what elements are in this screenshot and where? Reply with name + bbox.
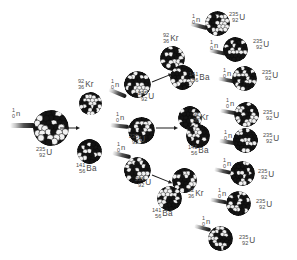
mass-atomic-number: 23592 — [138, 91, 147, 102]
atomic-number: 92 — [132, 140, 138, 146]
label-neutron-n-gen1-b: 10n — [116, 112, 124, 123]
label-uranium-u-gen2-5: 23592U — [263, 133, 279, 144]
mass-atomic-number: 10 — [223, 158, 226, 169]
label-barium-ba-gen1: 14156Ba — [76, 163, 97, 174]
label-uranium-u-gen2-2: 23592U — [253, 39, 269, 50]
element-symbol: U — [263, 41, 269, 49]
atomic-number: 92 — [259, 205, 265, 211]
mass-atomic-number: 23592 — [229, 12, 238, 23]
nucleus-uranium — [234, 102, 259, 127]
mass-atomic-number: 10 — [202, 216, 205, 227]
label-neutron-n-gen0: 10n — [12, 108, 20, 119]
arrow-head-icon — [168, 180, 173, 185]
atomic-number: 0 — [226, 104, 229, 110]
mass-atomic-number: 14156 — [152, 208, 161, 219]
element-symbol: Ba — [162, 210, 172, 218]
label-krypton-kr-gen1: 9236Kr — [78, 79, 94, 90]
label-neutron-n-gen2-1: 10n — [192, 14, 200, 25]
label-krypton-kr-gen2-c: 9236Kr — [188, 188, 204, 199]
mass-atomic-number: 23592 — [253, 39, 262, 50]
label-uranium-u-gen2-6: 23592U — [258, 169, 274, 180]
atomic-number: 92 — [256, 45, 262, 51]
element-symbol: Ba — [198, 147, 208, 155]
arrow-head-icon — [76, 126, 80, 130]
element-symbol: U — [268, 171, 274, 179]
label-neutron-n-gen2-4: 10n — [226, 98, 234, 109]
label-barium-ba-gen2-a: 14156Ba — [189, 72, 210, 83]
nucleus-uranium — [205, 11, 230, 36]
mass-atomic-number: 10 — [223, 68, 226, 79]
atomic-number: 56 — [191, 151, 197, 157]
label-neutron-n-gen2-3: 10n — [223, 68, 231, 79]
element-symbol: n — [228, 132, 232, 140]
mass-atomic-number: 10 — [192, 14, 195, 25]
atomic-number: 92 — [265, 76, 271, 82]
mass-atomic-number: 23592 — [129, 134, 138, 145]
element-symbol: Kr — [195, 190, 203, 198]
label-uranium-u-gen2-4: 23592U — [263, 110, 279, 121]
label-uranium-u-gen2-7: 23592U — [256, 199, 272, 210]
mass-atomic-number: 10 — [210, 40, 213, 51]
mass-atomic-number: 9236 — [163, 33, 169, 44]
reaction-arrow — [151, 172, 175, 186]
label-neutron-n-gen1-c: 10n — [117, 142, 125, 153]
element-symbol: Ba — [86, 165, 96, 173]
atomic-number: 36 — [163, 39, 169, 45]
label-uranium-u-gen1-b: 23592U — [129, 134, 145, 145]
mass-atomic-number: 10 — [12, 108, 15, 119]
mass-atomic-number: 10 — [111, 79, 114, 90]
mass-atomic-number: 10 — [224, 130, 227, 141]
label-neutron-n-gen2-7: 10n — [218, 188, 226, 199]
mass-atomic-number: 23592 — [263, 110, 272, 121]
label-neutron-n-gen2-2: 10n — [210, 40, 218, 51]
atomic-number: 92 — [261, 175, 267, 181]
element-symbol: U — [46, 149, 52, 157]
mass-atomic-number: 23592 — [36, 147, 45, 158]
mass-atomic-number: 10 — [218, 188, 221, 199]
mass-atomic-number: 9236 — [193, 112, 199, 123]
neutron-streak — [110, 123, 129, 129]
atomic-number: 0 — [116, 118, 119, 124]
nucleus-uranium — [226, 191, 251, 216]
label-neutron-n-gen2-6: 10n — [223, 158, 231, 169]
mass-atomic-number: 23592 — [135, 177, 144, 188]
element-symbol: n — [115, 81, 119, 89]
neutron-streak — [10, 123, 35, 128]
atomic-number: 92 — [242, 241, 248, 247]
atomic-number: 0 — [192, 20, 195, 26]
element-symbol: Ba — [199, 74, 209, 82]
element-symbol: n — [230, 100, 234, 108]
label-neutron-n-gen2-5: 10n — [224, 130, 232, 141]
label-uranium-u-gen2-1: 23592U — [229, 12, 245, 23]
label-krypton-kr-gen2-b: 9236Kr — [193, 112, 209, 123]
mass-atomic-number: 23592 — [256, 199, 265, 210]
atomic-number: 36 — [193, 118, 199, 124]
atomic-number: 56 — [155, 214, 161, 220]
element-symbol: U — [273, 112, 279, 120]
element-symbol: n — [227, 70, 231, 78]
label-uranium-u-gen0: 23592U — [36, 147, 52, 158]
atomic-number: 92 — [266, 116, 272, 122]
element-symbol: n — [214, 42, 218, 50]
label-barium-ba-gen2-c: 14156Ba — [152, 208, 173, 219]
element-symbol: n — [121, 144, 125, 152]
atomic-number: 0 — [223, 164, 226, 170]
label-uranium-u-gen2-8: 23592U — [239, 235, 255, 246]
atomic-number: 92 — [39, 153, 45, 159]
mass-atomic-number: 10 — [226, 98, 229, 109]
nucleus-krypton — [79, 92, 102, 115]
atomic-number: 0 — [218, 194, 221, 200]
element-symbol: U — [249, 237, 255, 245]
fission-chain-diagram: 10n23592U9236Kr14156Ba10n10n10n23592U235… — [0, 0, 297, 260]
mass-atomic-number: 14156 — [76, 163, 85, 174]
element-symbol: n — [206, 218, 210, 226]
arrow-head-icon — [168, 72, 173, 77]
mass-atomic-number: 14156 — [188, 145, 197, 156]
atomic-number: 56 — [192, 78, 198, 84]
element-symbol: U — [273, 135, 279, 143]
element-symbol: n — [196, 16, 200, 24]
nucleus-uranium — [230, 161, 255, 186]
mass-atomic-number: 14156 — [189, 72, 198, 83]
element-symbol: U — [145, 179, 151, 187]
label-uranium-u-gen1-c: 23592U — [135, 177, 151, 188]
